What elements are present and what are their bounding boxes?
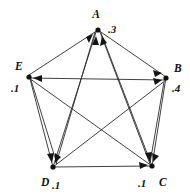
edge-B-E [29,78,166,80]
node-label-D: D [40,176,50,188]
edge-A-D-inner [56,32,95,164]
node-label-A: A [91,8,100,20]
weight-label-D: .1 [52,179,60,191]
arrowhead-into-E-from-B [33,75,42,82]
node-dot-A[interactable] [95,27,100,32]
arrowhead-into-A-from-C [100,36,107,46]
node-dot-C[interactable] [149,163,154,168]
node-dot-B[interactable] [163,75,168,80]
node-dot-E[interactable] [26,74,31,79]
node-dot-D[interactable] [50,164,55,169]
edge-B-C [152,77,166,166]
graph-figure: A B C D E .3 .4 .1 .1 .1 [0,0,190,195]
edge-C-A [101,33,152,166]
directed-graph-canvas: A B C D E .3 .4 .1 .1 .1 [0,0,190,195]
arrowhead-into-C-from-A [152,153,159,162]
node-label-E: E [14,60,23,72]
edge-E-D-inner [31,80,57,164]
edge-B-C-inner [150,82,164,163]
arrowhead-into-D-from-A [47,153,54,163]
weight-label-E: .1 [11,82,19,94]
edge-group [29,30,166,167]
edge-E-C [29,78,152,166]
node-label-group: A B C D E [14,8,182,188]
edge-D-E [29,75,53,167]
weight-label-group: .3 .4 .1 .1 .1 [11,23,181,191]
node-label-B: B [173,62,182,74]
weight-label-A: .3 [108,23,117,35]
node-label-C: C [159,176,167,188]
weight-label-C: .1 [138,177,146,189]
weight-label-B: .4 [172,82,181,94]
arrowhead-into-C-from-E [139,162,148,169]
edge-C-D [53,166,152,167]
